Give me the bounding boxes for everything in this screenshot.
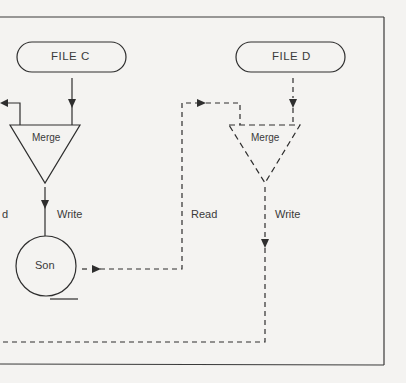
arrow-right-icon	[197, 99, 206, 107]
son-label: Son	[35, 259, 55, 271]
file-c-label: FILE C	[51, 50, 90, 62]
arrow-down-icon	[41, 200, 49, 209]
edge-label-write-left: Write	[57, 208, 82, 220]
file-d-label: FILE D	[272, 50, 311, 62]
edge-label-partial-read: d	[2, 208, 8, 220]
edge-label-write-right: Write	[275, 208, 300, 220]
arrow-right-icon	[92, 265, 101, 273]
arrow-down-icon	[68, 99, 76, 108]
merge-left-label: Merge	[32, 132, 60, 143]
edge-merge-left-to-offscreen	[4, 103, 20, 125]
frame-border	[0, 17, 384, 365]
edge-label-read-middle: Read	[191, 208, 217, 220]
merge-right-label: Merge	[251, 132, 279, 143]
flowchart-diagram: FILE C FILE D Merge Merge Son d Write Re…	[0, 0, 406, 383]
edge-son-to-merge-right	[82, 103, 240, 269]
arrow-down-icon	[289, 99, 297, 108]
arrow-left-icon	[0, 99, 8, 107]
arrow-down-icon	[261, 239, 269, 248]
